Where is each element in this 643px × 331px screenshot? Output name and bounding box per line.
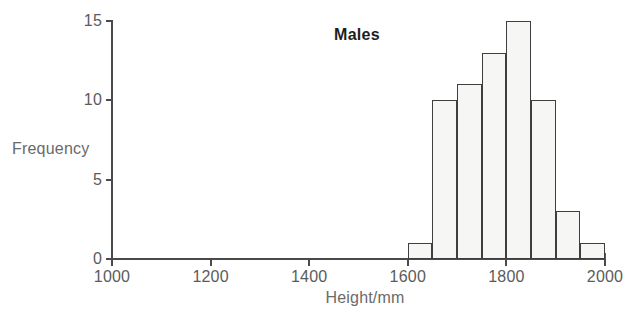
x-tick-label-2000: 2000 xyxy=(587,268,623,286)
x-tick-2000 xyxy=(604,259,606,266)
plot-area: 051015100012001400160018002000 xyxy=(112,21,605,259)
y-tick-label-5: 5 xyxy=(93,171,102,189)
x-tick-1000 xyxy=(111,259,113,266)
x-tick-1200 xyxy=(210,259,212,266)
y-tick-15: 15 xyxy=(106,20,112,22)
histogram-bar xyxy=(432,100,457,259)
x-tick-label-1800: 1800 xyxy=(488,268,524,286)
histogram-bar xyxy=(506,21,531,259)
histogram-bar xyxy=(556,211,581,259)
histogram-bar xyxy=(482,53,507,259)
histogram-bar xyxy=(531,100,556,259)
x-tick-1400 xyxy=(308,259,310,266)
y-axis-label: Frequency xyxy=(12,140,89,158)
histogram-bar xyxy=(457,84,482,259)
y-tick-label-15: 15 xyxy=(84,12,102,30)
x-tick-1800 xyxy=(505,259,507,266)
x-axis-label: Height/mm xyxy=(325,289,404,307)
x-tick-1600 xyxy=(407,259,409,266)
histogram-figure: Males Frequency Height/mm 05101510001200… xyxy=(0,0,643,331)
y-tick-label-0: 0 xyxy=(93,250,102,268)
histogram-bar xyxy=(580,243,605,259)
y-tick-label-10: 10 xyxy=(84,91,102,109)
x-tick-label-1400: 1400 xyxy=(291,268,327,286)
x-tick-label-1600: 1600 xyxy=(390,268,426,286)
x-tick-label-1200: 1200 xyxy=(192,268,228,286)
y-tick-10: 10 xyxy=(106,99,112,101)
histogram-bar xyxy=(408,243,433,259)
y-tick-5: 5 xyxy=(106,179,112,181)
x-tick-label-1000: 1000 xyxy=(94,268,130,286)
